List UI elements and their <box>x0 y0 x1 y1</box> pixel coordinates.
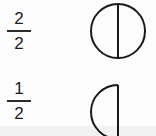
half-circle-icon <box>91 85 118 136</box>
full-circle-halved-icon <box>91 4 145 58</box>
shapes <box>0 0 156 136</box>
